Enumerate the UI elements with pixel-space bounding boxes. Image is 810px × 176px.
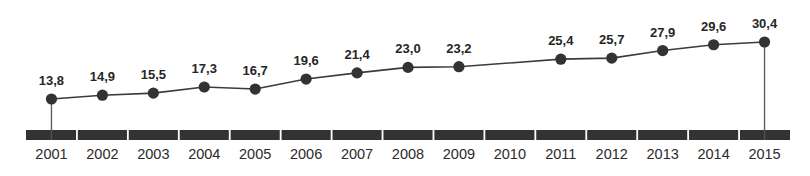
x-axis-tick-label-2013: 2013 — [647, 146, 679, 162]
x-axis-tick-label-2011: 2011 — [545, 146, 576, 162]
x-axis-tick-label-2001: 2001 — [35, 146, 67, 162]
x-axis-tick-label-2008: 2008 — [392, 146, 424, 162]
x-axis-tick-label-2002: 2002 — [86, 146, 118, 162]
x-axis-tick-label-2004: 2004 — [188, 146, 220, 162]
x-axis-tick-labels: 2001200220032004200520062007200820092010… — [0, 0, 810, 176]
x-axis-tick-label-2007: 2007 — [341, 146, 373, 162]
x-axis-tick-label-2009: 2009 — [443, 146, 475, 162]
line-chart: 13,814,915,517,316,719,621,423,023,225,4… — [0, 0, 810, 176]
x-axis-tick-label-2012: 2012 — [596, 146, 628, 162]
x-axis-tick-label-2015: 2015 — [748, 146, 780, 162]
x-axis-tick-label-2003: 2003 — [137, 146, 169, 162]
x-axis-tick-label-2005: 2005 — [239, 146, 271, 162]
x-axis-tick-label-2006: 2006 — [290, 146, 322, 162]
x-axis-tick-label-2014: 2014 — [697, 146, 729, 162]
x-axis-tick-label-2010: 2010 — [494, 146, 526, 162]
